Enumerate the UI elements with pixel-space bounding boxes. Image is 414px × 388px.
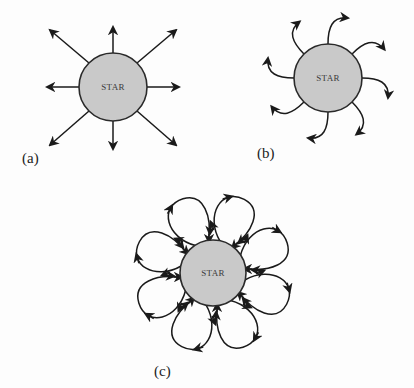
curved-arrow-icon <box>308 112 328 138</box>
star-label: STAR <box>201 268 225 278</box>
arrow-upright-icon <box>137 30 176 63</box>
curved-arrow-icon <box>362 78 388 98</box>
figure-canvas: STAR (a) STAR (b) <box>0 0 414 388</box>
arrow-downright-icon <box>137 111 176 145</box>
arrow-downleft-icon <box>50 111 89 145</box>
diagram-svg: STAR (a) STAR (b) <box>0 0 414 388</box>
star-label: STAR <box>101 82 125 92</box>
panel-b: STAR (b) <box>257 18 388 162</box>
panel-label-a: (a) <box>22 150 39 167</box>
curved-arrow-icon <box>268 58 294 78</box>
curved-arrow-icon <box>328 18 348 44</box>
arrow-upleft-icon <box>50 30 89 63</box>
star-label: STAR <box>316 73 340 83</box>
panel-label-b: (b) <box>257 145 275 162</box>
panel-label-c: (c) <box>154 363 171 380</box>
panel-c: STAR (c) <box>131 191 296 380</box>
panel-a: STAR (a) <box>22 27 179 167</box>
